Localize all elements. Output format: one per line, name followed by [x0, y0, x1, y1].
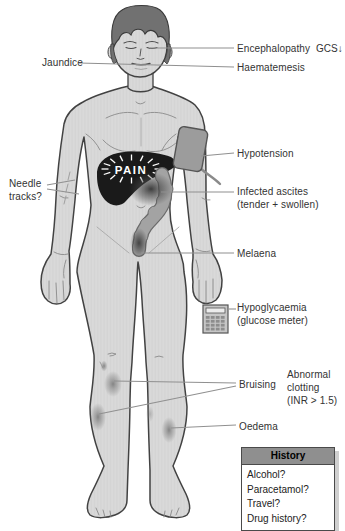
- history-item-alcohol: Alcohol?: [242, 468, 334, 483]
- label-abnormal-clotting: Abnormal clotting (INR > 1.5): [287, 368, 337, 407]
- bruise-right-shin: [146, 406, 154, 422]
- history-title: History: [242, 448, 334, 465]
- label-jaundice: Jaundice: [42, 56, 83, 69]
- bruise-left-knee: [104, 371, 122, 397]
- label-needle-tracks: Needle tracks?: [9, 177, 42, 203]
- history-item-paracetamol: Paracetamol?: [242, 483, 334, 498]
- label-hypotension: Hypotension: [237, 147, 294, 160]
- label-melaena: Melaena: [237, 247, 276, 260]
- label-haematemesis: Haematemesis: [237, 61, 305, 74]
- ascites-shading: [129, 172, 173, 206]
- label-hypoglycaemia: Hypoglycaemia (glucose meter): [237, 301, 308, 327]
- label-oedema: Oedema: [239, 420, 278, 433]
- label-encephalopathy: Encephalopathy GCS↓: [237, 42, 343, 55]
- history-item-travel: Travel?: [242, 497, 334, 512]
- bruise-left-shin: [90, 403, 106, 431]
- oedema-right-calf: [162, 417, 177, 443]
- liver-failure-diagram: PAIN: [0, 0, 345, 531]
- bruise-small: [101, 361, 108, 372]
- history-items: Alcohol? Paracetamol? Travel? Drug histo…: [242, 465, 334, 530]
- history-box: History Alcohol? Paracetamol? Travel? Dr…: [241, 447, 335, 531]
- history-item-drug-history: Drug history?: [242, 512, 334, 527]
- glucose-meter-icon: [203, 305, 228, 333]
- label-infected-ascites: Infected ascites (tender + swollen): [237, 185, 319, 211]
- label-bruising: Bruising: [239, 378, 276, 391]
